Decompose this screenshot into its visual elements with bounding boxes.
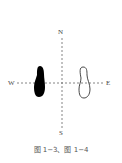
south-label: S — [59, 129, 63, 137]
outline-footprint-icon — [79, 67, 90, 98]
compass-axes-svg — [0, 0, 122, 140]
compass-diagram: N S W E — [0, 0, 122, 140]
figure-caption: 图 1−3、图 1−4 — [0, 146, 122, 155]
north-label: N — [58, 28, 63, 36]
filled-footprint-icon — [34, 66, 45, 97]
east-label: E — [106, 79, 110, 87]
west-label: W — [8, 79, 15, 87]
